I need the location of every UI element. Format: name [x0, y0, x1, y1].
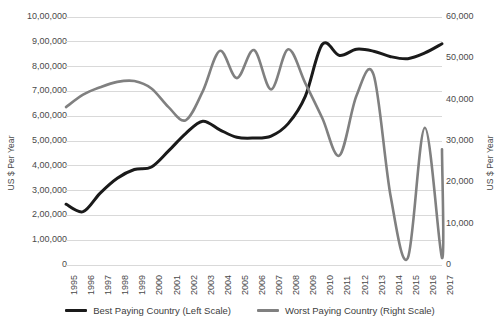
- legend-label: Best Paying Country (Left Scale): [93, 305, 231, 316]
- legend-entry-best-paying-country[interactable]: Best Paying Country (Left Scale): [65, 305, 231, 316]
- legend-swatch-icon: [65, 309, 87, 312]
- chart-container: US $ Per Year US $ Per Year 01,00,0002,0…: [0, 0, 500, 327]
- legend-label: Worst Paying Country (Right Scale): [285, 305, 435, 316]
- chart-legend: Best Paying Country (Left Scale)Worst Pa…: [0, 305, 500, 316]
- legend-swatch-icon: [257, 309, 279, 312]
- series-lines: [66, 43, 443, 260]
- series-line-best-paying-country: [66, 43, 442, 212]
- plot-area: [0, 0, 500, 327]
- series-line-worst-paying-country: [66, 49, 443, 260]
- legend-entry-worst-paying-country[interactable]: Worst Paying Country (Right Scale): [257, 305, 435, 316]
